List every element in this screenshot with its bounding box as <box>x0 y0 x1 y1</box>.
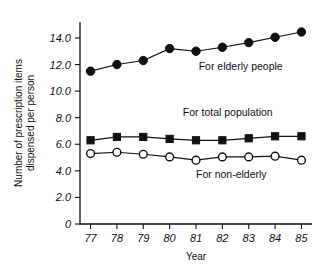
data-point-marker <box>113 148 121 156</box>
chart-canvas: 02.04.06.08.010.012.014.0777879808182838… <box>0 0 323 271</box>
x-tick-label: 83 <box>243 232 256 244</box>
y-axis-title-line2: dispensed per person <box>25 75 36 171</box>
data-point-marker <box>245 135 252 142</box>
prescription-items-line-chart: 02.04.06.08.010.012.014.0777879808182838… <box>0 0 323 271</box>
data-point-marker <box>271 33 279 41</box>
data-point-marker <box>298 133 305 140</box>
data-point-marker <box>219 137 226 144</box>
data-point-marker <box>139 150 147 158</box>
x-tick-label: 77 <box>84 232 97 244</box>
data-point-marker <box>140 133 147 140</box>
x-tick-label: 80 <box>164 232 177 244</box>
data-point-marker <box>298 156 306 164</box>
data-point-marker <box>166 135 173 142</box>
data-point-marker <box>192 47 200 55</box>
y-tick-label: 4.0 <box>56 165 72 177</box>
data-point-marker <box>218 43 226 51</box>
data-point-marker <box>245 153 253 161</box>
y-tick-label: 6.0 <box>56 138 72 150</box>
data-point-marker <box>139 56 147 64</box>
data-point-marker <box>113 133 120 140</box>
y-tick-label: 2.0 <box>55 191 72 203</box>
y-tick-label: 12.0 <box>50 59 72 71</box>
x-tick-label: 85 <box>295 232 308 244</box>
data-point-marker <box>192 137 199 144</box>
series-annotation-1: For total population <box>183 106 273 118</box>
data-point-marker <box>271 133 278 140</box>
data-point-marker <box>297 28 305 36</box>
data-point-marker <box>245 38 253 46</box>
series-annotation-2: For non-elderly <box>196 168 267 180</box>
data-point-marker <box>192 156 200 164</box>
x-tick-label: 81 <box>190 232 202 244</box>
data-point-marker <box>87 137 94 144</box>
x-tick-label: 84 <box>269 232 281 244</box>
x-tick-label: 82 <box>216 232 228 244</box>
data-point-marker <box>166 153 174 161</box>
data-point-marker <box>165 44 173 52</box>
series-annotation-0: For elderly people <box>199 60 283 72</box>
data-point-marker <box>271 152 279 160</box>
y-axis-title-line1: Number of prescription items <box>13 59 24 187</box>
data-point-marker <box>87 150 95 158</box>
y-tick-label: 0 <box>65 218 72 230</box>
x-tick-label: 79 <box>137 232 149 244</box>
chart-series <box>86 28 305 164</box>
x-axis-title: Year <box>186 251 207 262</box>
y-tick-label: 8.0 <box>56 112 72 124</box>
data-point-marker <box>218 153 226 161</box>
data-point-marker <box>113 60 121 68</box>
y-tick-label: 14.0 <box>50 32 72 44</box>
x-tick-label: 78 <box>111 232 124 244</box>
data-point-marker <box>86 67 94 75</box>
y-tick-label: 10.0 <box>50 85 72 97</box>
